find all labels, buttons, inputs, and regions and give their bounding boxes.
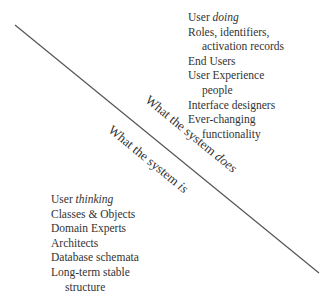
list-item: Classes & Objects: [51, 207, 139, 222]
list-item: User Experience: [188, 68, 284, 83]
list-item: structure: [51, 280, 139, 294]
list-item: Architects: [51, 236, 139, 251]
user-thinking-list: User thinking Classes & Objects Domain E…: [51, 192, 139, 294]
user-thinking-title: User thinking: [51, 192, 139, 207]
list-item: Roles, identifiers,: [188, 25, 284, 40]
list-item: people: [188, 83, 284, 98]
list-item: Long-term stable: [51, 265, 139, 280]
list-item: activation records: [188, 39, 284, 54]
list-item: Domain Experts: [51, 221, 139, 236]
list-item: Interface designers: [188, 98, 284, 113]
user-doing-title: User doing: [188, 10, 284, 25]
list-item: End Users: [188, 54, 284, 69]
list-item: Ever-changing: [188, 112, 284, 127]
user-doing-list: User doing Roles, identifiers, activatio…: [188, 10, 284, 141]
list-item: Database schemata: [51, 250, 139, 265]
